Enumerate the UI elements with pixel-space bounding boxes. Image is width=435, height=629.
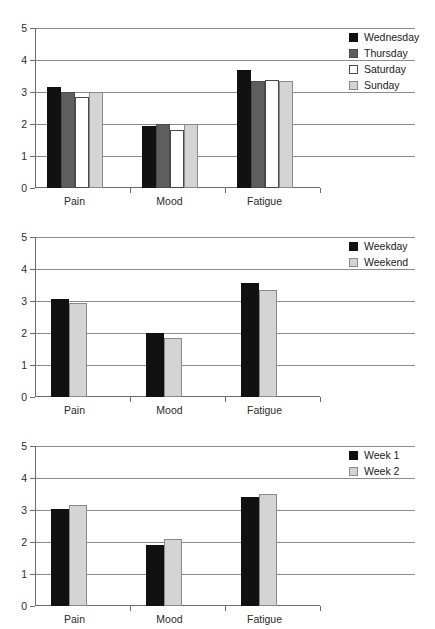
y-axis (35, 28, 36, 188)
gridline (35, 510, 415, 511)
x-axis-category-label: Mood (156, 196, 182, 207)
y-axis-tick-label: 0 (21, 601, 27, 612)
legend-item-label: Saturday (364, 64, 406, 75)
x-axis-category-label: Pain (64, 614, 85, 625)
legend-item[interactable]: Wednesday (349, 30, 419, 45)
y-axis-tick-label: 5 (21, 23, 27, 34)
y-axis-tick-label: 4 (21, 264, 27, 275)
legend-swatch-icon (349, 467, 358, 476)
gridline (35, 237, 415, 238)
bar (164, 338, 182, 397)
y-axis-tick-label: 0 (21, 183, 27, 194)
x-axis-category-label: Fatigue (247, 196, 282, 207)
bar (51, 509, 69, 606)
plot-area-weekday-weekend: 012345PainMoodFatigue (35, 237, 320, 397)
legend-swatch-icon (349, 242, 358, 251)
bar (184, 124, 198, 188)
y-axis (35, 446, 36, 606)
y-axis-tick-label: 5 (21, 441, 27, 452)
legend-item[interactable]: Thursday (349, 46, 419, 61)
bar (69, 303, 87, 397)
y-axis (35, 237, 36, 397)
y-axis-tick-label: 1 (21, 360, 27, 371)
y-axis-tick (30, 188, 35, 189)
bar (259, 494, 277, 606)
gridline (35, 333, 415, 334)
gridline (35, 365, 415, 366)
bar (241, 283, 259, 397)
legend-days: WednesdayThursdaySaturdaySunday (349, 30, 419, 94)
x-axis-tick (130, 397, 131, 402)
bar (69, 505, 87, 606)
legend-item[interactable]: Week 2 (349, 464, 399, 479)
x-axis-tick (320, 397, 321, 402)
plot-area-days: 012345PainMoodFatigue (35, 28, 320, 188)
x-axis-tick (225, 188, 226, 193)
legend-item[interactable]: Sunday (349, 78, 419, 93)
bar (279, 81, 293, 188)
y-axis-tick (30, 397, 35, 398)
y-axis-tick-label: 1 (21, 569, 27, 580)
legend-swatch-icon (349, 33, 358, 42)
legend-item[interactable]: Week 1 (349, 448, 399, 463)
legend-item-label: Wednesday (364, 32, 419, 43)
gridline (35, 28, 415, 29)
legend-item-label: Sunday (364, 80, 400, 91)
gridline (35, 301, 415, 302)
y-axis-tick-label: 2 (21, 537, 27, 548)
x-axis-category-label: Pain (64, 196, 85, 207)
x-axis-tick (320, 188, 321, 193)
x-axis-category-label: Pain (64, 405, 85, 416)
bar (241, 497, 259, 606)
chart-week1-week2: 012345PainMoodFatigue Week 1Week 2 (0, 446, 435, 629)
bar (47, 87, 61, 188)
legend-item-label: Thursday (364, 48, 408, 59)
bar (146, 545, 164, 606)
bar (251, 81, 265, 188)
x-axis-tick (130, 188, 131, 193)
plot-area-week1-week2: 012345PainMoodFatigue (35, 446, 320, 606)
legend-item[interactable]: Saturday (349, 62, 419, 77)
x-axis-tick (130, 606, 131, 611)
legend-item-label: Week 2 (364, 466, 399, 477)
bar (51, 299, 69, 397)
bar (61, 92, 75, 188)
y-axis-tick-label: 0 (21, 392, 27, 403)
x-axis-tick (320, 606, 321, 611)
legend-swatch-icon (349, 451, 358, 460)
y-axis-tick-label: 4 (21, 473, 27, 484)
legend-swatch-icon (349, 258, 358, 267)
x-axis-category-label: Fatigue (247, 405, 282, 416)
legend-item-label: Week 1 (364, 450, 399, 461)
chart-weekday-weekend: 012345PainMoodFatigue WeekdayWeekend (0, 237, 435, 427)
legend-swatch-icon (349, 65, 358, 74)
gridline (35, 446, 415, 447)
bar (142, 126, 156, 188)
legend-item[interactable]: Weekend (349, 255, 408, 270)
chart-days: 012345PainMoodFatigue WednesdayThursdayS… (0, 28, 435, 218)
legend-swatch-icon (349, 81, 358, 90)
bar (75, 97, 89, 188)
bar (170, 130, 184, 188)
x-axis-tick (225, 606, 226, 611)
x-axis-category-label: Fatigue (247, 614, 282, 625)
y-axis-tick-label: 3 (21, 296, 27, 307)
y-axis-tick-label: 4 (21, 55, 27, 66)
legend-swatch-icon (349, 49, 358, 58)
bar (259, 290, 277, 397)
bar (146, 333, 164, 397)
x-axis-category-label: Mood (156, 614, 182, 625)
y-axis-tick-label: 3 (21, 87, 27, 98)
legend-weekday-weekend: WeekdayWeekend (349, 239, 408, 271)
y-axis-tick-label: 5 (21, 232, 27, 243)
y-axis-tick (30, 606, 35, 607)
bar (156, 124, 170, 188)
x-axis-tick (225, 397, 226, 402)
legend-item-label: Weekend (364, 257, 408, 268)
y-axis-tick-label: 1 (21, 151, 27, 162)
bar (265, 80, 279, 188)
legend-item[interactable]: Weekday (349, 239, 408, 254)
bar (164, 539, 182, 606)
y-axis-tick-label: 2 (21, 119, 27, 130)
